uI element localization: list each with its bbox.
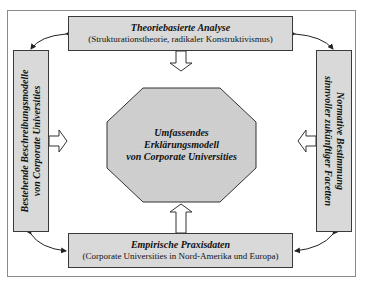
curved-arrow-bottom-right: [295, 234, 333, 251]
curved-arrow-bottom-left: [31, 234, 66, 251]
empirical-data-title: Empirische Praxisdaten: [131, 239, 230, 251]
normative-determination-line1: Normative Bestimmung: [334, 76, 346, 206]
central-model-line3: von Corporate Universities: [126, 151, 237, 163]
normative-determination-line2: sinnvoller zukünftiger Facetten: [322, 76, 334, 206]
arrow-right-from-left: [49, 130, 67, 152]
central-model-line2: Erklärungsmodell: [144, 139, 219, 151]
normative-determination-box: Normative Bestimmung sinnvoller zukünfti…: [316, 50, 352, 232]
empirical-data-subtitle: (Corporate Universities in Nord-Amerika …: [82, 251, 278, 262]
existing-models-box: Bestehende Beschreibungsmodelle von Corp…: [13, 50, 49, 232]
curved-arrow-top-left: [31, 34, 66, 49]
existing-models-line2: von Corporate Universities: [31, 69, 43, 212]
arrow-up-from-bottom: [170, 204, 192, 233]
theory-analysis-title: Theoriebasierte Analyse: [131, 22, 230, 34]
empirical-data-box: Empirische Praxisdaten (Corporate Univer…: [68, 233, 293, 268]
existing-models-line1: Bestehende Beschreibungsmodelle: [19, 69, 31, 212]
central-model-label: Umfassendes Erklärungsmodell von Corpora…: [107, 88, 256, 202]
central-model-line1: Umfassendes: [154, 127, 208, 139]
theory-analysis-box: Theoriebasierte Analyse (Strukturationst…: [68, 16, 293, 51]
existing-models-label: Bestehende Beschreibungsmodelle von Corp…: [19, 69, 43, 212]
arrow-left-from-right: [298, 130, 316, 152]
curved-arrow-top-right: [295, 34, 333, 49]
normative-determination-label: Normative Bestimmung sinnvoller zukünfti…: [322, 76, 346, 206]
arrow-down-from-top: [170, 51, 192, 71]
theory-analysis-subtitle: (Strukturationstheorie, radikaler Konstr…: [88, 34, 273, 45]
